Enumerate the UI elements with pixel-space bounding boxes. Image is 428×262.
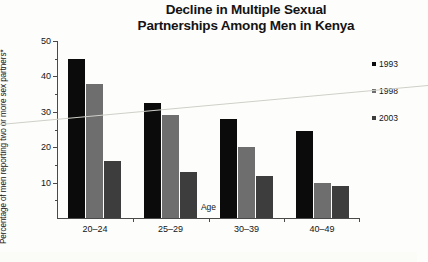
y-tick-label-50: 50 [41, 37, 51, 46]
legend-label-2003: 2003 [379, 113, 398, 123]
x-tick-4 [359, 218, 360, 222]
legend-item-1993: 1993 [372, 58, 398, 69]
bar-groups [57, 41, 360, 218]
bar-group-20-24 [57, 41, 133, 218]
y-tick-label-40: 40 [41, 72, 51, 81]
y-tick-label-30: 30 [41, 107, 51, 116]
x-tick-1 [133, 218, 134, 222]
x-tick-3 [284, 218, 285, 222]
bar-group-30-39 [209, 41, 285, 218]
legend-label-1998: 1998 [379, 86, 398, 96]
bar-1998-40-49 [314, 183, 331, 218]
x-axis-title: Age [57, 202, 360, 212]
y-axis-title-text: Percentage of men reporting two or more … [0, 0, 10, 250]
y-tick-label-10: 10 [41, 178, 51, 187]
bar-group-25-29 [133, 41, 209, 218]
legend-swatch-2003-icon [372, 116, 376, 120]
bar-1993-20-24 [68, 59, 85, 218]
x-category-label-40-49: 40–49 [277, 224, 367, 234]
bar-1998-20-24 [86, 84, 103, 219]
x-tick-2 [209, 218, 210, 222]
scan-edge-artifact [0, 252, 417, 262]
y-tick-label-20: 20 [41, 143, 51, 152]
legend-swatch-1993-icon [372, 62, 376, 66]
legend-swatch-1998-icon [372, 89, 376, 93]
bar-1993-25-29 [144, 103, 161, 218]
legend-item-1998: 1998 [372, 85, 398, 96]
chart-legend: 1993 1998 2003 [372, 58, 398, 139]
legend-item-2003: 2003 [372, 112, 398, 123]
legend-label-1993: 1993 [379, 59, 398, 69]
plot-area: 50 40 30 20 10 [57, 41, 360, 218]
bar-group-40-49 [284, 41, 360, 218]
